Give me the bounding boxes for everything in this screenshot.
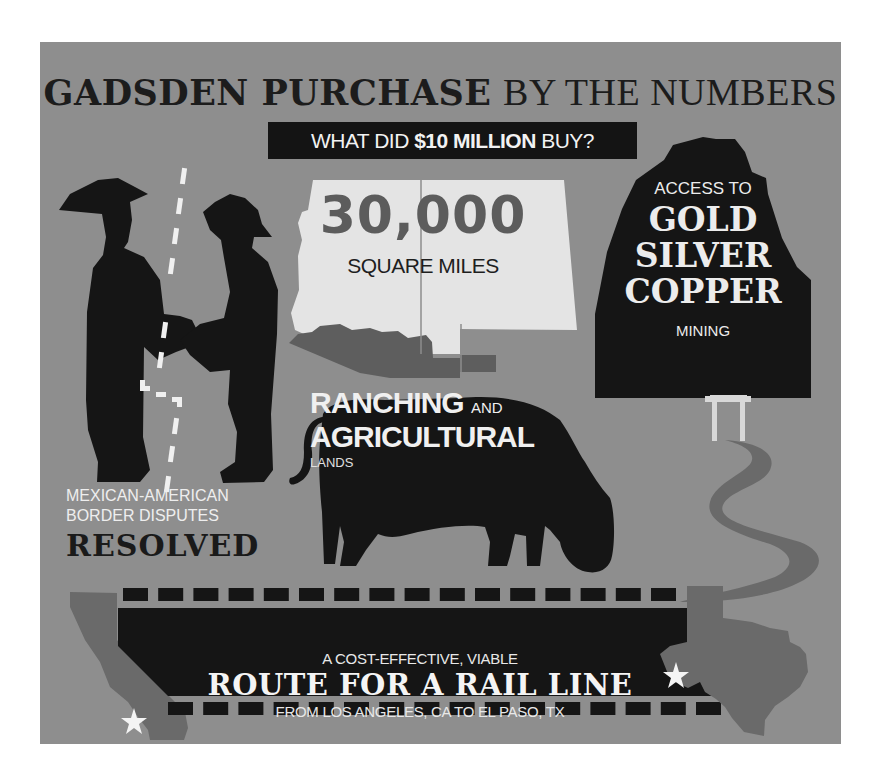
- rail-tie: [229, 588, 254, 601]
- area-value: 30,000: [298, 185, 548, 245]
- river-icon: [680, 440, 819, 602]
- rail-tie: [475, 588, 500, 601]
- rail-tie: [510, 588, 535, 601]
- rail-tie: [581, 588, 606, 601]
- rail-tie: [264, 588, 289, 601]
- rail-tie: [193, 588, 218, 601]
- rail-tie: [545, 588, 570, 601]
- area-unit: SQUARE MILES: [298, 254, 548, 278]
- border-line1: MEXICAN-AMERICAN: [66, 486, 229, 506]
- ranching-big: RANCHING: [310, 386, 464, 419]
- mining-outro: MINING: [608, 322, 798, 339]
- infographic-panel: GADSDEN PURCHASE BY THE NUMBERS WHAT DID…: [40, 42, 841, 744]
- rail-tie: [123, 588, 148, 601]
- ranching-line1: RANCHING AND: [310, 386, 503, 420]
- ranching-line2: AGRICULTURAL: [310, 420, 534, 454]
- rail-headline: ROUTE FOR A RAIL LINE: [140, 668, 700, 702]
- rail-tie: [616, 588, 641, 601]
- rail-tie: [405, 588, 430, 601]
- rail-intro: A COST-EFFECTIVE, VIABLE: [140, 650, 700, 667]
- rail-ties-top: [123, 588, 676, 601]
- rail-tie: [651, 588, 676, 601]
- metal-copper: COPPER: [608, 274, 798, 310]
- border-line2: BORDER DISPUTES: [66, 506, 229, 526]
- border-resolved: RESOLVED: [66, 528, 259, 563]
- rail-tie: [158, 588, 183, 601]
- handshake-figures-icon: [59, 178, 278, 483]
- border-text: MEXICAN-AMERICAN BORDER DISPUTES: [66, 486, 229, 526]
- mining-intro: ACCESS TO: [608, 179, 798, 199]
- ranching-line3: LANDS: [310, 455, 353, 470]
- metal-silver: SILVER: [608, 238, 798, 274]
- rail-detail: FROM LOS ANGELES, CA TO EL PASO, TX: [140, 703, 700, 720]
- rail-tie: [299, 588, 324, 601]
- rail-tie: [334, 588, 359, 601]
- rail-tie: [369, 588, 394, 601]
- metal-gold: GOLD: [608, 202, 798, 238]
- ranching-and: AND: [471, 399, 503, 416]
- rail-tie: [440, 588, 465, 601]
